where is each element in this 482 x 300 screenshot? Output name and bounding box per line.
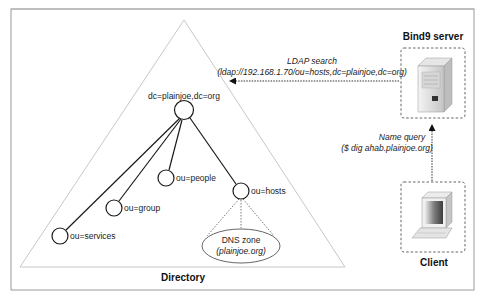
client-title: Client [420,257,448,268]
root-node-label: dc=plainjoe,dc=org [148,91,220,101]
diagram-canvas: dc=plainjoe,dc=org ou=people ou=group ou… [0,0,482,300]
group-node-circle [106,200,122,216]
ldap-search-label: LDAP search [287,56,337,66]
server-tower-icon [418,58,452,112]
hosts-node-circle [233,183,249,199]
dns-zone-domain: (plainjoe.org) [216,246,266,256]
hosts-node-label: ou=hosts [251,186,286,196]
dns-zone[interactable]: DNS zone (plainjoe.org) [202,229,280,263]
server-title: Bind9 server [403,31,464,42]
ldap-search-url: (ldap://192.168.1.70/ou=hosts,dc=plainjo… [217,67,407,77]
name-query-command: ($ dig ahab.plainjoe.org) [341,143,433,153]
group-node-label: ou=group [124,203,160,213]
dns-zone-title: DNS zone [222,235,261,245]
root-node-circle [175,101,194,120]
directory-title: Directory [161,272,205,283]
people-node-label: ou=people [176,173,216,183]
name-query-label: Name query [379,132,426,142]
services-node-circle [52,228,68,244]
people-node-circle [158,170,174,186]
services-node-label: ou=services [70,231,116,241]
